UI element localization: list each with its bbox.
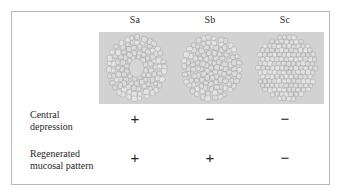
cell-cluster-sa-icon <box>99 32 174 104</box>
cell-cluster-sb-icon <box>174 32 249 104</box>
value-central-depression-sa: + <box>98 110 172 128</box>
illustration-band <box>99 32 324 104</box>
value-regenerated-pattern-sc: − <box>248 149 322 167</box>
column-header-sb: Sb <box>173 14 247 25</box>
value-central-depression-sc: − <box>248 110 322 128</box>
cell-cluster-sc-icon <box>249 32 324 104</box>
column-header-sc: Sc <box>248 14 322 25</box>
table-row: Central depression + − − <box>12 109 329 147</box>
table-row: Regenerated mucosal pattern + + − <box>12 148 329 186</box>
value-regenerated-pattern-sa: + <box>98 149 172 167</box>
value-regenerated-pattern-sb: + <box>173 149 247 167</box>
figure-root: Sa Sb Sc Central depression <box>0 0 342 196</box>
value-central-depression-sb: − <box>173 110 247 128</box>
column-header-sa: Sa <box>98 14 172 25</box>
